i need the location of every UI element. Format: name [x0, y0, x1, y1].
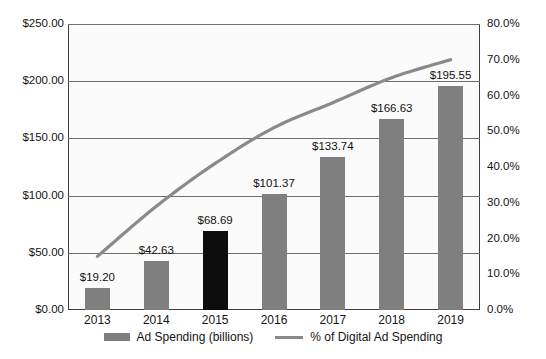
category-label-2014: 2014 — [126, 314, 186, 326]
bar-label-2014: $42.63 — [116, 245, 196, 257]
line-swatch-icon — [275, 336, 303, 339]
bar-2013 — [85, 288, 110, 310]
legend-entry-digital-share: % of Digital Ad Spending — [275, 331, 442, 343]
category-label-2013: 2013 — [67, 314, 127, 326]
category-label-2016: 2016 — [244, 314, 304, 326]
left-tick-label: $250.00 — [0, 18, 64, 30]
bar-label-2015: $68.69 — [175, 215, 255, 227]
right-tick-label: 20.0% — [487, 233, 546, 245]
bar-2017 — [320, 157, 345, 310]
right-tick-label: 70.0% — [487, 54, 546, 66]
right-tick-label: 50.0% — [487, 125, 546, 137]
left-tick-label: $150.00 — [0, 132, 64, 144]
legend-label-ad-spending: Ad Spending (billions) — [137, 331, 254, 343]
legend-entry-ad-spending: Ad Spending (billions) — [104, 331, 254, 343]
combo-chart: $0.00$50.00$100.00$150.00$200.00$250.00 … — [0, 0, 546, 359]
left-tick-label: $200.00 — [0, 75, 64, 87]
legend-label-digital-share: % of Digital Ad Spending — [310, 331, 442, 343]
bar-2019 — [438, 86, 463, 310]
chart-legend: Ad Spending (billions) % of Digital Ad S… — [0, 331, 546, 343]
bar-label-2017: $133.74 — [293, 141, 373, 153]
gridline-$250.00 — [68, 24, 480, 25]
left-tick-label: $100.00 — [0, 190, 64, 202]
category-label-2015: 2015 — [185, 314, 245, 326]
bar-label-2016: $101.37 — [234, 178, 314, 190]
right-tick-label: 0.0% — [487, 304, 546, 316]
bar-2018 — [379, 119, 404, 310]
right-tick-label: 80.0% — [487, 18, 546, 30]
right-tick-label: 30.0% — [487, 197, 546, 209]
bar-swatch-icon — [104, 333, 130, 341]
category-label-2019: 2019 — [421, 314, 481, 326]
category-label-2018: 2018 — [362, 314, 422, 326]
left-tick-label: $0.00 — [0, 304, 64, 316]
bar-label-2018: $166.63 — [352, 103, 432, 115]
bar-label-2019: $195.55 — [411, 70, 491, 82]
left-tick-label: $50.00 — [0, 247, 64, 259]
bar-label-2013: $19.20 — [57, 272, 137, 284]
category-label-2017: 2017 — [303, 314, 363, 326]
right-tick-label: 10.0% — [487, 268, 546, 280]
bar-2016 — [262, 194, 287, 310]
right-tick-label: 60.0% — [487, 90, 546, 102]
right-tick-label: 40.0% — [487, 161, 546, 173]
bar-2015 — [203, 231, 228, 310]
gridline-$150.00 — [68, 138, 480, 139]
bar-2014 — [144, 261, 169, 310]
